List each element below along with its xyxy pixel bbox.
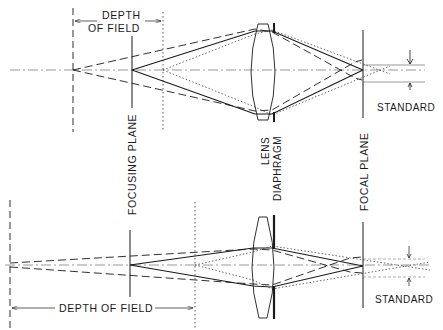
ray-dashed-bottom-lower xyxy=(10,257,362,285)
dof-label-top-line2: OF FIELD xyxy=(88,22,140,34)
lens-top xyxy=(251,24,275,120)
bottom-panel: DEPTH OF FIELD STANDARD xyxy=(5,200,433,330)
ray-dashed-bottom-upper xyxy=(10,249,362,273)
standard-label-bottom: STANDARD xyxy=(375,294,433,305)
ray-dotted-bottom-lower xyxy=(195,262,430,289)
lens-bottom xyxy=(252,217,274,318)
standard-label-top: STANDARD xyxy=(377,102,435,113)
ray-dashed-top-upper xyxy=(73,29,362,80)
diaphragm-label: DIAPHRAGM xyxy=(272,136,283,201)
ray-dashed-top-lower xyxy=(73,60,362,111)
ray-solid-bottom-upper xyxy=(130,248,363,266)
ray-solid-top-upper xyxy=(132,31,363,70)
dof-label-bottom: DEPTH OF FIELD xyxy=(59,302,153,314)
top-panel: DEPTH OF FIELD STANDARD xyxy=(10,8,435,132)
focal-plane-label: FOCAL PLANE xyxy=(358,132,370,211)
dof-label-top-line1: DEPTH xyxy=(102,9,141,21)
ray-solid-bottom-lower xyxy=(130,265,363,287)
lens-label: LENS xyxy=(260,137,271,165)
focusing-plane-label: FOCUSING PLANE xyxy=(126,114,138,215)
depth-of-field-diagram: DEPTH OF FIELD STANDARD FOCUSING PLANE L… xyxy=(0,0,443,330)
ray-dotted-bottom-upper xyxy=(195,246,430,270)
